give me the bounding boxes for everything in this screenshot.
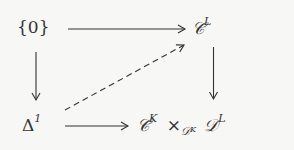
node-base: 𝒞	[192, 18, 204, 38]
node-base: 𝒞	[137, 115, 149, 135]
arrow-dashed-diagonal	[65, 45, 184, 110]
fiber-product-symbol: ×	[167, 115, 181, 135]
node-sup2: L	[218, 112, 225, 125]
node-top-left: {0}	[17, 19, 49, 36]
node-sup: 1	[34, 112, 41, 125]
node-top-right: 𝒞L	[192, 18, 211, 37]
node-bottom-right: 𝒞K ×𝒟K 𝒟L	[137, 115, 226, 137]
node-sub-sup: K	[190, 125, 196, 134]
node-bottom-left: Δ1	[22, 115, 41, 134]
node-label: {0}	[17, 17, 49, 37]
node-sub-base: 𝒟	[181, 125, 190, 138]
node-sup: L	[204, 15, 211, 28]
node-sup: K	[149, 112, 157, 125]
node-base: Δ	[22, 115, 34, 135]
node-base2: 𝒟	[204, 115, 218, 135]
